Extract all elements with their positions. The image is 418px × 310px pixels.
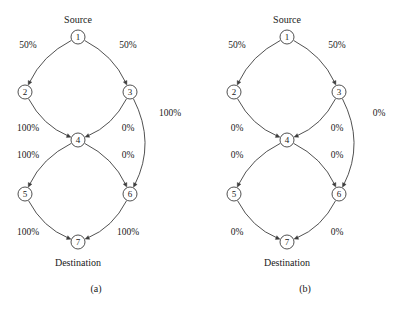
edge-6-to-7: 100% [85,201,139,240]
edge-1-to-2: 50% [228,40,280,85]
edge-1-to-2: 50% [19,40,71,85]
edge-line [238,99,278,136]
edge-line [238,143,280,184]
source-label: Source [273,14,301,25]
node-7[interactable]: 7 [280,235,294,249]
node-label: 4 [285,135,290,145]
node-label: 3 [128,87,133,97]
edge-4-to-5: 0% [231,143,281,187]
arrow-head-icon [85,236,90,240]
arrow-head-icon [332,182,336,187]
edge-line [238,201,278,238]
edge-3-to-4: 0% [85,99,134,138]
node-label: 6 [128,189,133,199]
arrow-head-icon [275,236,280,240]
edge-label-6-7: 100% [117,227,139,237]
destination-label: Destination [55,257,101,268]
edge-label-2-4: 0% [231,123,244,133]
node-label: 6 [337,189,342,199]
node-label: 7 [285,237,290,247]
edge-label-3-4: 0% [122,123,135,133]
node-label: 7 [76,237,81,247]
arrow-head-icon [123,80,127,85]
edge-label-5-7: 100% [17,227,39,237]
node-label: 3 [337,87,342,97]
node-1[interactable]: 1 [71,30,85,44]
node-4[interactable]: 4 [280,133,294,147]
edge-label-1-2: 50% [228,40,246,50]
network-diagram-panel-a: 50%50%100%0%100%0%100%100%100%1234567Sou… [0,0,209,310]
edge-1-to-3: 50% [85,40,137,85]
node-6[interactable]: 6 [332,187,346,201]
nodes-group: 1234567 [227,30,346,249]
arrow-head-icon [85,134,90,138]
edge-label-4-5: 100% [17,150,39,160]
figure-root: 50%50%100%0%100%0%100%100%100%1234567Sou… [0,0,418,310]
arrow-head-icon [133,183,137,188]
edge-label-4-6: 0% [122,150,135,160]
arrow-head-icon [342,183,346,188]
node-5[interactable]: 5 [18,187,32,201]
node-label: 4 [76,135,81,145]
edge-5-to-7: 0% [231,201,280,240]
node-label: 5 [232,189,237,199]
node-1[interactable]: 1 [280,30,294,44]
edge-label-3-4: 0% [331,123,344,133]
node-label: 5 [23,189,28,199]
arrow-head-icon [28,80,32,85]
node-3[interactable]: 3 [123,85,137,99]
edge-label-4-5: 0% [231,150,244,160]
edge-label-1-3: 50% [328,40,346,50]
arrow-head-icon [294,134,299,138]
edges-group: 50%50%0%0%0%0%0%0%0% [228,40,385,239]
edge-line [85,143,126,184]
arrow-head-icon [28,182,32,187]
arrow-head-icon [123,182,127,187]
edge-4-to-5: 100% [17,143,71,187]
edge-line [294,143,335,184]
nodes-group: 1234567 [18,30,137,249]
edge-4-to-6: 0% [85,143,135,187]
node-6[interactable]: 6 [123,187,137,201]
edge-label-1-2: 50% [19,40,37,50]
edge-6-to-7: 0% [294,201,343,240]
destination-label: Destination [264,257,310,268]
node-3[interactable]: 3 [332,85,346,99]
node-label: 2 [232,87,237,97]
edge-3-to-6: 100% [133,99,181,188]
edge-2-to-4: 100% [17,99,71,138]
arrow-head-icon [237,182,241,187]
arrow-head-icon [66,236,71,240]
network-diagram-panel-b: 50%50%0%0%0%0%0%0%0%1234567SourceDestina… [209,0,418,310]
panel-caption: (b) [299,283,311,295]
node-2[interactable]: 2 [227,85,241,99]
arrow-head-icon [332,80,336,85]
edge-4-to-6: 0% [294,143,344,187]
arrow-head-icon [66,134,71,138]
edge-1-to-3: 50% [294,40,346,85]
edge-label-3-6: 0% [373,108,386,118]
edge-label-4-6: 0% [331,150,344,160]
edge-3-to-6: 0% [342,99,385,188]
arrow-head-icon [275,134,280,138]
source-label: Source [64,14,92,25]
node-label: 1 [76,32,81,42]
node-4[interactable]: 4 [71,133,85,147]
panel-caption: (a) [90,283,101,295]
node-2[interactable]: 2 [18,85,32,99]
edges-group: 50%50%100%0%100%0%100%100%100% [17,40,181,239]
edge-line [133,99,145,185]
arrow-head-icon [237,80,241,85]
node-5[interactable]: 5 [227,187,241,201]
edge-label-3-6: 100% [159,108,181,118]
arrow-head-icon [294,236,299,240]
edge-label-2-4: 100% [17,123,39,133]
edge-label-1-3: 50% [119,40,137,50]
edge-line [342,99,354,185]
node-label: 2 [23,87,28,97]
edge-label-5-7: 0% [231,227,244,237]
node-7[interactable]: 7 [71,235,85,249]
edge-5-to-7: 100% [17,201,71,240]
edge-label-6-7: 0% [331,227,344,237]
node-label: 1 [285,32,290,42]
